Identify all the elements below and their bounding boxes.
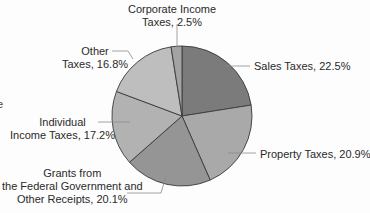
label-text: Income Taxes, 17.2% — [10, 129, 115, 142]
label-text: Corporate Income — [128, 3, 216, 16]
label-text: Taxes, 2.5% — [128, 16, 216, 29]
label-text: Grants from — [2, 167, 143, 180]
cropped-text-fragment: e — [0, 98, 3, 110]
label-text: the Federal Government and — [2, 180, 143, 193]
label-text: Other — [62, 45, 128, 58]
label-text: Taxes, 16.8% — [62, 58, 128, 71]
label-text: Individual — [10, 116, 115, 129]
label-text: Other Receipts, 20.1% — [2, 193, 143, 206]
pie-slices — [112, 46, 252, 186]
label-property-taxes: Property Taxes, 20.9% — [260, 148, 370, 161]
label-individual-income-taxes: Individual Income Taxes, 17.2% — [10, 116, 115, 142]
label-other-taxes: Other Taxes, 16.8% — [62, 45, 128, 71]
label-text: Property Taxes, 20.9% — [260, 148, 370, 161]
label-sales-taxes: Sales Taxes, 22.5% — [254, 60, 350, 73]
label-grants-federal: Grants from the Federal Government and O… — [2, 167, 143, 206]
label-corporate-income-taxes: Corporate Income Taxes, 2.5% — [128, 3, 216, 29]
pie-slice-sales-taxes — [182, 46, 251, 116]
label-text: Sales Taxes, 22.5% — [254, 60, 350, 73]
